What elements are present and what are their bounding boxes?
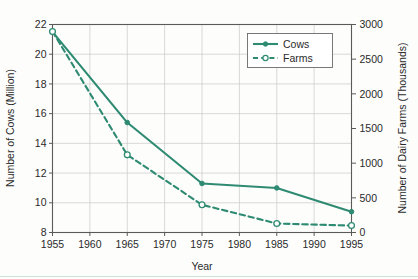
x-tick-label: 1970: [153, 238, 177, 250]
x-tick-label: 1980: [228, 238, 252, 250]
data-point-farms: [124, 152, 130, 158]
data-point-cows: [274, 186, 279, 191]
data-point-farms: [199, 202, 205, 208]
data-point-cows: [349, 209, 354, 214]
chart-page: 195519601965197019751980198519901995 810…: [0, 0, 418, 279]
y-tick-label-left: 10: [35, 196, 47, 208]
x-tick-label: 1955: [41, 238, 65, 250]
legend[interactable]: Cows Farms: [248, 34, 333, 68]
x-tick-label: 1985: [265, 238, 289, 250]
x-axis-title: Year: [191, 260, 213, 272]
y-tick-label-right: 0: [360, 226, 366, 238]
data-point-farms: [349, 223, 355, 229]
y-axis-right-title: Number of Dairy Farms (Thousands): [396, 43, 408, 214]
x-tick-label: 1995: [340, 238, 364, 250]
y-axis-left-title: Number of Cows (Million): [4, 69, 16, 187]
y-tick-label-left: 12: [35, 167, 47, 179]
data-point-farms: [274, 221, 280, 227]
y-tick-label-left: 20: [35, 48, 47, 60]
x-tick-label: 1990: [302, 238, 326, 250]
x-tick-label: 1965: [116, 238, 140, 250]
data-point-cows: [200, 181, 205, 186]
y-tick-label-right: 3000: [360, 18, 384, 30]
data-point-cows: [125, 120, 130, 125]
legend-label-farms: Farms: [283, 52, 313, 64]
y-tick-label-left: 8: [41, 226, 47, 238]
x-tick-label: 1975: [190, 238, 214, 250]
y-tick-label-right: 2500: [360, 53, 384, 65]
y-tick-label-right: 500: [360, 192, 378, 204]
dairy-cows-farms-line-chart: 195519601965197019751980198519901995 810…: [0, 0, 418, 279]
y-tick-label-left: 14: [35, 137, 47, 149]
legend-label-cows: Cows: [283, 38, 309, 50]
data-point-farms: [50, 29, 56, 35]
x-tick-label: 1960: [78, 238, 102, 250]
legend-marker-cows-filled-circle-icon: [263, 42, 267, 46]
y-tick-label-left: 18: [35, 78, 47, 90]
y-tick-label-right: 1500: [360, 122, 384, 134]
y-tick-label-right: 2000: [360, 88, 384, 100]
legend-marker-farms-open-circle-icon: [263, 55, 268, 60]
y-tick-label-left: 22: [35, 18, 47, 30]
y-tick-label-right: 1000: [360, 157, 384, 169]
y-tick-label-left: 16: [35, 107, 47, 119]
